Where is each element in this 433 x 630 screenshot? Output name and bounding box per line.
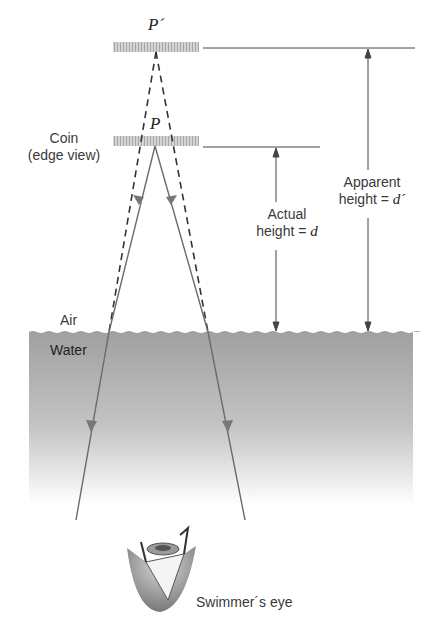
virtual-rays: [109, 52, 208, 332]
actual-height-line2: height = d: [242, 223, 332, 240]
image-point-label: P´: [148, 16, 164, 33]
apparent-height-line1: Apparent: [322, 174, 422, 191]
coin-label: Coin (edge view): [24, 130, 104, 164]
air-label: Air: [60, 312, 77, 329]
coin-label-line1: Coin: [24, 130, 104, 147]
coin-image: [113, 42, 199, 52]
water-label: Water: [50, 342, 87, 359]
coin-actual: [113, 136, 199, 146]
apparent-height-line2: height = d´: [322, 191, 422, 208]
object-point-label: P: [150, 115, 160, 132]
swimmer-eye-icon: [127, 528, 196, 612]
apparent-height-variable: d´: [393, 191, 406, 207]
actual-height-label: Actual height = d: [242, 206, 332, 240]
swimmer-eye-label: Swimmer´s eye: [196, 594, 292, 611]
actual-height-line1: Actual: [242, 206, 332, 223]
apparent-height-prefix: height =: [339, 191, 393, 207]
actual-height-prefix: height =: [256, 223, 310, 239]
actual-height-variable: d: [310, 223, 318, 239]
coin-label-line2: (edge view): [24, 147, 104, 164]
apparent-height-label: Apparent height = d´: [322, 174, 422, 208]
